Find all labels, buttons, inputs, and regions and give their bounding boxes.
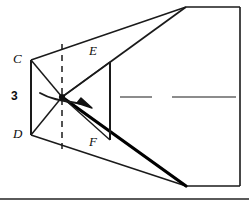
edge-C-to-center [31,60,62,97]
edge-D-to-center [31,97,62,135]
lower-converging-edges [31,97,186,186]
vertex-label-D: D [13,127,22,140]
vertex-dot-icon [59,94,65,100]
edge-center-to-bottom-apex-thick [62,97,186,186]
figure-canvas: C D 3 E F [0,0,249,209]
edge-D-to-bottom-apex [31,135,186,186]
curved-arrow-right-icon [40,93,92,108]
vertex-label-F: F [89,135,97,148]
vertex-label-E: E [89,44,97,57]
upper-converging-edges [31,7,186,97]
edge-C-to-top-apex [31,7,186,60]
dimension-label-3: 3 [11,90,18,102]
vertex-label-C: C [13,52,22,65]
diagram-svg [0,0,249,209]
curved-arrow-head [77,98,92,108]
edge-center-to-E [62,62,110,97]
inner-cross-edges [31,60,110,140]
